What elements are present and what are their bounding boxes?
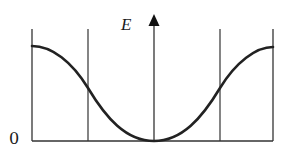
origin-label: 0 (9, 131, 19, 147)
axis-arrow-icon (149, 14, 160, 26)
energy-axis-label: E (121, 16, 131, 33)
energy-curve (32, 46, 273, 141)
energy-diagram (0, 0, 296, 149)
